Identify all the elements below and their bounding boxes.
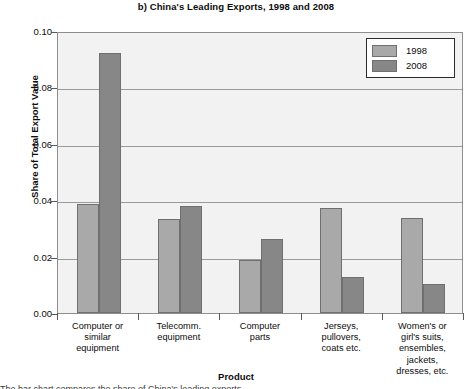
x-tick-mark: [301, 313, 302, 320]
x-tick-mark: [463, 313, 464, 320]
x-category-line: ensembles,: [382, 343, 463, 354]
x-tick-mark: [138, 313, 139, 320]
legend: 1998 2008: [366, 38, 455, 78]
x-tick-mark: [219, 313, 220, 320]
chart-figure: b) China's Leading Exports, 1998 and 200…: [0, 0, 472, 389]
chart-title: b) China's Leading Exports, 1998 and 200…: [0, 1, 472, 12]
x-category-line: girl's suits,: [382, 332, 463, 343]
bar-2008-1: [180, 206, 202, 313]
x-category-line: pullovers,: [301, 332, 382, 343]
x-category-line: similar: [57, 332, 138, 343]
legend-swatch-2008: [372, 60, 397, 72]
x-category-label-3: Jerseys,pullovers,coats etc.: [301, 321, 382, 355]
y-axis-tick-marks: [0, 32, 57, 315]
x-axis-tick-marks: [0, 313, 472, 321]
bar-2008-0: [99, 53, 121, 313]
bar-1998-2: [239, 260, 261, 313]
bar-2008-3: [342, 277, 364, 313]
legend-swatch-1998: [372, 45, 397, 57]
x-category-label-0: Computer orsimilarequipment: [57, 321, 138, 355]
x-axis-title: Product: [0, 371, 472, 382]
bar-2008-2: [261, 239, 283, 313]
x-category-line: Computer or: [57, 321, 138, 332]
x-category-line: Jerseys,: [301, 321, 382, 332]
legend-row: 1998: [372, 43, 449, 58]
bar-1998-0: [77, 204, 99, 313]
x-category-line: parts: [219, 332, 300, 343]
x-category-line: equipment: [57, 343, 138, 354]
legend-label-1998: 1998: [406, 45, 427, 56]
x-category-line: jackets,: [382, 355, 463, 366]
bar-1998-3: [320, 208, 342, 313]
x-category-line: equipment: [138, 332, 219, 343]
legend-label-2008: 2008: [406, 60, 427, 71]
bar-1998-4: [401, 218, 423, 313]
x-category-label-4: Women's orgirl's suits,ensembles,jackets…: [382, 321, 463, 377]
bar-1998-1: [158, 219, 180, 313]
x-category-label-1: Telecomm.equipment: [138, 321, 219, 343]
x-category-line: Telecomm.: [138, 321, 219, 332]
x-category-line: Computer: [219, 321, 300, 332]
x-category-line: coats etc.: [301, 343, 382, 354]
bar-2008-4: [423, 284, 445, 313]
bottom-caption: The bar chart compares the share of Chin…: [0, 384, 472, 389]
x-tick-mark: [382, 313, 383, 320]
x-category-line: Women's or: [382, 321, 463, 332]
legend-row: 2008: [372, 58, 449, 73]
x-category-label-2: Computerparts: [219, 321, 300, 343]
x-tick-mark: [57, 313, 58, 320]
